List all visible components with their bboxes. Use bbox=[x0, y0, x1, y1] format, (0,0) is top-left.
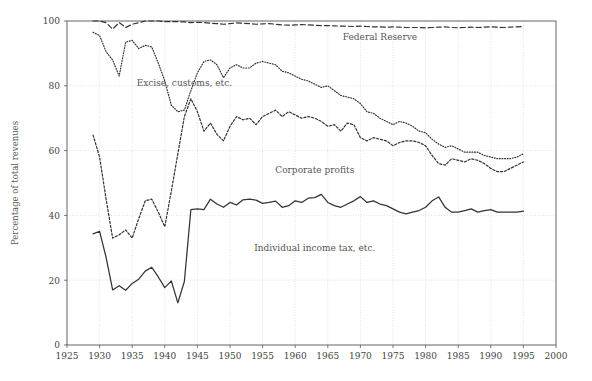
tick-label-x: 1925 bbox=[56, 351, 79, 361]
tick-label-y: 40 bbox=[49, 211, 61, 221]
tick-label-x: 1985 bbox=[447, 351, 470, 361]
tick-label-y: 20 bbox=[49, 276, 61, 286]
tick-label-x: 1935 bbox=[121, 351, 144, 361]
tick-label-x: 1965 bbox=[316, 351, 339, 361]
y-axis-title: Percentage of total revenues bbox=[10, 121, 20, 245]
tick-label-x: 1960 bbox=[284, 351, 307, 361]
tick-label-x: 1930 bbox=[88, 351, 111, 361]
chart-figure: Individual income tax, etc.Corporate pro… bbox=[0, 0, 592, 381]
tick-label-x: 1970 bbox=[349, 351, 372, 361]
series-label-3: Federal Reserve bbox=[343, 32, 417, 42]
tick-label-x: 2000 bbox=[545, 351, 568, 361]
tick-label-x: 1950 bbox=[219, 351, 242, 361]
x-axis-ticks: 1925193019351940194519501955196019651970… bbox=[56, 345, 568, 361]
tick-label-x: 1945 bbox=[186, 351, 209, 361]
tick-label-y: 80 bbox=[49, 81, 61, 91]
tick-label-y: 0 bbox=[54, 340, 60, 350]
y-axis-ticks: 020406080100 bbox=[43, 16, 67, 350]
tick-label-x: 1990 bbox=[479, 351, 502, 361]
tick-label-y: 100 bbox=[43, 16, 60, 26]
tick-label-x: 1975 bbox=[382, 351, 405, 361]
revenue-composition-chart: Individual income tax, etc.Corporate pro… bbox=[0, 0, 592, 381]
plot-background bbox=[67, 21, 556, 345]
tick-label-x: 1955 bbox=[251, 351, 274, 361]
tick-label-x: 1940 bbox=[153, 351, 176, 361]
series-label-1: Corporate profits bbox=[275, 165, 354, 175]
series-label-0: Individual income tax, etc. bbox=[254, 243, 375, 253]
series-label-2: Excise, customs, etc. bbox=[137, 78, 233, 88]
tick-label-y: 60 bbox=[49, 146, 61, 156]
tick-label-x: 1980 bbox=[414, 351, 437, 361]
tick-label-x: 1995 bbox=[512, 351, 535, 361]
